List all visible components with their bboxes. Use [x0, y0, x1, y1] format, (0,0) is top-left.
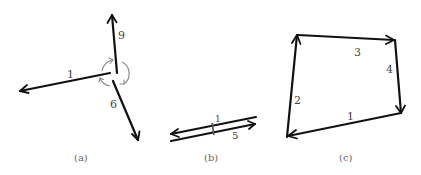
vector-c-3 [298, 35, 394, 44]
vector-label-3: 3 [354, 46, 361, 59]
panel-a: 9 1 6 (a) [20, 15, 140, 163]
vector-c-2 [287, 35, 301, 137]
caption-a: (a) [74, 152, 88, 163]
caption-b: (b) [204, 152, 218, 163]
vector-c-1 [288, 113, 401, 139]
caption-c: (c) [339, 152, 353, 163]
arc-arrowhead-icon [120, 80, 124, 84]
vector-c-4 [395, 40, 405, 113]
vector-label-1: 1 [67, 68, 74, 81]
rotation-arc-right [122, 62, 129, 84]
vector-a-9 [108, 15, 118, 73]
vector-diagram-figure: 9 1 6 (a) 1 5 (b) [0, 0, 421, 175]
vector-a-1 [20, 73, 110, 93]
vector-label-1: 1 [347, 110, 354, 123]
vector-label-1: 1 [215, 114, 221, 124]
vector-label-5: 5 [232, 130, 238, 141]
panel-c: 3 4 1 2 (c) [287, 35, 405, 163]
vector-label-6: 6 [110, 98, 117, 111]
vector-label-9: 9 [118, 29, 125, 42]
panel-b: 1 5 (b) [171, 114, 256, 163]
vector-label-4: 4 [386, 63, 393, 76]
vector-label-2: 2 [294, 94, 301, 107]
